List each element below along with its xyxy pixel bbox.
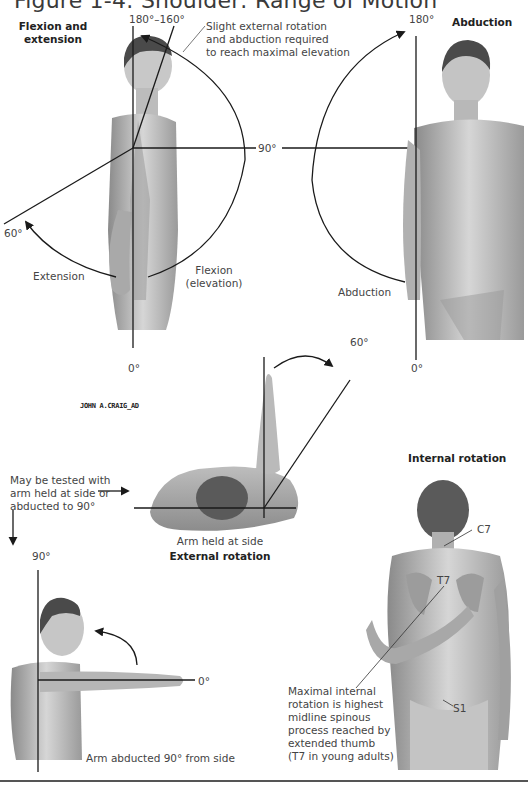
angle-60-external-label: 60° <box>350 336 369 349</box>
footer-divider <box>0 780 528 782</box>
abduction-heading: Abduction <box>452 16 512 29</box>
flexion-label-line: Flexion <box>184 264 244 277</box>
abduction-figure <box>403 40 524 340</box>
note-line: process reached by <box>288 724 394 737</box>
angle-60-extension-label: 60° <box>4 227 23 240</box>
internal-rotation-heading: Internal rotation <box>408 452 506 465</box>
flexion-label: Flexion (elevation) <box>184 264 244 290</box>
abduction-label: Abduction <box>338 286 391 299</box>
note-line: (T7 in young adults) <box>288 750 394 763</box>
note-line: May be tested with <box>10 474 110 487</box>
figure-page: Figure 1-4: Shoulder: Range of Motion <box>0 0 528 786</box>
external-rotation-heading: External rotation <box>165 550 275 563</box>
note-line: abducted to 90° <box>10 500 110 513</box>
note-line: to reach maximal elevation <box>206 46 350 59</box>
elevation-note: Slight external rotation and abduction r… <box>206 20 350 59</box>
note-line: Maximal internal <box>288 685 394 698</box>
angle-90-label: 90° <box>258 142 277 155</box>
arm-held-at-side-caption: Arm held at side <box>170 535 270 548</box>
angle-0-flexion-label: 0° <box>128 362 140 375</box>
artist-signature: JOHN A.CRAIG_AD <box>80 402 139 410</box>
angle-180-abduction-label: 180° <box>409 13 434 26</box>
angle-0-abducted-label: 0° <box>198 675 210 688</box>
note-line: rotation is highest <box>288 698 394 711</box>
external-rotation-figure <box>150 374 298 531</box>
c7-landmark-label: C7 <box>477 523 491 536</box>
angle-90-abducted-label: 90° <box>32 550 51 563</box>
note-line: extended thumb <box>288 737 394 750</box>
extension-label: Extension <box>33 270 85 283</box>
arm-abducted-caption: Arm abducted 90° from side <box>86 752 235 765</box>
angle-0-abduction-label: 0° <box>411 362 423 375</box>
note-line: arm held at side or <box>10 487 110 500</box>
note-line: midline spinous <box>288 711 394 724</box>
heading-line: Flexion and <box>18 20 88 33</box>
flexion-label-line: (elevation) <box>184 277 244 290</box>
abducted-rotation-figure <box>11 598 183 760</box>
flexion-figure <box>108 36 178 330</box>
t7-landmark-label: T7 <box>437 574 450 587</box>
testing-note: May be tested with arm held at side or a… <box>10 474 110 513</box>
note-line: and abduction required <box>206 33 350 46</box>
internal-rotation-note: Maximal internal rotation is highest mid… <box>288 685 394 763</box>
note-line: Slight external rotation <box>206 20 350 33</box>
flexion-extension-heading: Flexion and extension <box>18 20 88 46</box>
range-of-motion-illustration <box>0 0 528 786</box>
s1-landmark-label: S1 <box>453 702 466 715</box>
angle-180-160-label: 180°–160° <box>129 13 185 26</box>
heading-line: extension <box>18 33 88 46</box>
